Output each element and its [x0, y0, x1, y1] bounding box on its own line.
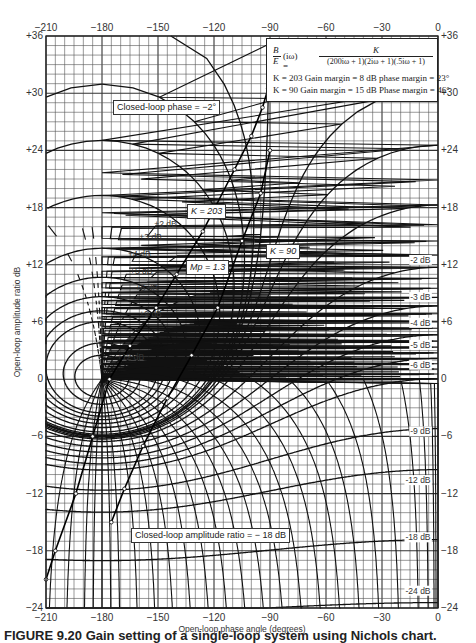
phase-contour — [87, 302, 88, 306]
y-tick-right: −18 — [441, 545, 458, 556]
x-tick-top: −120 — [203, 22, 226, 33]
x-tick-top: −90 — [262, 22, 279, 33]
phase-contour — [99, 355, 100, 359]
locus-point — [250, 134, 254, 138]
locus-point — [259, 192, 263, 196]
magnitude-label: +3 dB — [139, 232, 162, 242]
locus-point — [240, 239, 244, 243]
phase-contour — [98, 349, 99, 354]
y-tick-left: +30 — [26, 87, 43, 98]
phase-contour — [97, 343, 98, 348]
tf-denominator: (200iω + 1)(2iω + 1)(.5iω + 1) — [319, 57, 433, 66]
magnitude-label: -2 dB — [410, 255, 431, 265]
magnitude-label: -6 dB — [410, 360, 431, 370]
y-tick-right: +24 — [441, 144, 458, 155]
x-tick-top: −60 — [318, 22, 335, 33]
magnitude-label: +4 dB — [128, 249, 151, 259]
y-tick-left: +18 — [26, 202, 43, 213]
mp-annotation: Mp = 1.3 — [186, 260, 229, 275]
magnitude-label: -5 dB — [410, 340, 431, 350]
locus-point — [233, 168, 237, 172]
y-tick-right: −6 — [441, 430, 453, 441]
lhs-denominator: E — [273, 56, 279, 66]
magnitude-label: +12 dB — [117, 352, 145, 362]
locus-point — [190, 354, 194, 358]
x-tick-bottom: 0 — [435, 612, 441, 623]
y-tick-right: +12 — [441, 259, 458, 270]
y-tick-left: −12 — [26, 488, 43, 499]
y-tick-right: −24 — [441, 602, 458, 613]
x-tick-bottom: −120 — [203, 612, 226, 623]
y-tick-right: −12 — [441, 488, 458, 499]
locus-point — [141, 444, 145, 448]
x-tick-bottom: −30 — [374, 612, 391, 623]
x-tick-top: −180 — [91, 22, 114, 33]
phase-contour — [94, 283, 95, 288]
locus-point — [268, 149, 272, 153]
locus-point — [261, 106, 265, 110]
figure-caption: FIGURE 9.20 Gain setting of a single-loo… — [4, 628, 437, 643]
magnitude-label: +5 dB — [130, 266, 153, 276]
x-tick-bottom: −150 — [147, 612, 170, 623]
phase-contour — [97, 271, 98, 277]
y-tick-left: −6 — [32, 430, 44, 441]
phase-contour — [85, 294, 86, 298]
transfer-function-box: B E (iω) = K (200iω + 1)(2iω + 1)(.5iω +… — [266, 38, 438, 102]
lhs-numerator: B — [273, 45, 279, 55]
locus-point — [108, 377, 112, 381]
locus-point — [128, 344, 132, 348]
y-tick-left: 0 — [37, 373, 43, 384]
locus-point — [74, 492, 78, 496]
locus-point — [91, 435, 95, 439]
magnitude-label: +6 dB — [136, 283, 159, 293]
phase-contour — [100, 360, 101, 365]
y-tick-left: +12 — [26, 259, 43, 270]
magnitude-label: -3 dB — [410, 292, 431, 302]
magnitude-label: -4 dB — [410, 318, 431, 328]
y-tick-right: +6 — [441, 316, 453, 327]
locus-point — [201, 230, 205, 234]
locus-point — [175, 273, 179, 277]
locus-point — [110, 520, 114, 524]
y-tick-left: −24 — [26, 602, 43, 613]
y-tick-right: +18 — [441, 202, 458, 213]
magnitude-label: -9 dB — [410, 426, 431, 436]
k90-annotation: K = 90 — [266, 244, 300, 259]
phase-contour — [95, 293, 96, 297]
locus-point — [54, 549, 58, 553]
phase-contour — [83, 228, 86, 239]
magnitude-label: -18 dB — [405, 532, 430, 542]
x-tick-bottom: −210 — [35, 612, 58, 623]
x-tick-bottom: −180 — [91, 612, 114, 623]
phase-contour — [97, 308, 98, 314]
y-axis-title: Open-loop amplitude ratio dB — [12, 266, 22, 377]
phase-contour — [78, 274, 80, 280]
locus-point — [216, 306, 220, 310]
magnitude-label: +9 dB — [139, 309, 162, 319]
y-tick-left: −18 — [26, 545, 43, 556]
phase-contour — [96, 257, 97, 265]
phase-contour — [68, 254, 72, 261]
x-tick-top: −30 — [374, 22, 391, 33]
y-tick-left: +36 — [26, 30, 43, 41]
closed-loop-phase-annotation: Closed-loop phase = −2° — [113, 100, 220, 115]
y-tick-left: +6 — [32, 316, 44, 327]
amplitude-ratio-annotation: Closed-loop amplitude ratio = − 18 dB — [131, 528, 290, 543]
margin-note-k90: K = 90 Gain margin = 15 dB Phase margin … — [273, 85, 450, 95]
phase-contour — [96, 338, 97, 342]
y-tick-right: 0 — [441, 373, 447, 384]
magnitude-label: -12 dB — [405, 475, 430, 485]
x-tick-top: −150 — [147, 22, 170, 33]
phase-contour — [93, 325, 94, 329]
x-tick-bottom: −60 — [318, 612, 335, 623]
magnitude-label: -24 dB — [405, 586, 430, 596]
k203-annotation: K = 203 — [187, 204, 226, 219]
lhs-argument: (iω) = — [283, 51, 297, 71]
locus-point — [166, 396, 170, 400]
y-tick-left: +24 — [26, 144, 43, 155]
x-tick-bottom: −90 — [262, 612, 279, 623]
margin-note-k203: K = 203 Gain margin = 8 dB phase margin … — [273, 73, 449, 83]
y-tick-right: +36 — [441, 30, 458, 41]
magnitude-label: +2 dB — [154, 219, 177, 229]
phase-contour — [90, 258, 91, 265]
